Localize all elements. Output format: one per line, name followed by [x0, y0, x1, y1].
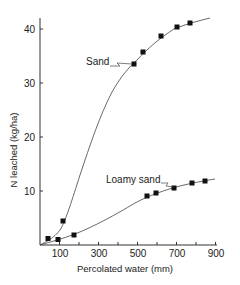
loamy-sand-curve — [40, 179, 215, 245]
x-axis-label: Percolated water (mm) — [77, 263, 173, 274]
sand-leader-line — [110, 63, 132, 66]
loamy-sand-label: Loamy sand — [106, 174, 160, 185]
y-tick-label: 20 — [24, 132, 36, 143]
x-tick-label: 500 — [130, 248, 147, 259]
sand-curve — [40, 18, 210, 245]
y-axis-label: N leached (kg/ha) — [8, 113, 19, 188]
y-tick-label: 30 — [24, 78, 36, 89]
loamy-sand-leader-line — [161, 183, 173, 187]
sand-markers — [46, 21, 193, 243]
x-tick-label: 900 — [208, 248, 225, 259]
sand-label: Sand — [86, 56, 109, 67]
y-tick-label: 40 — [24, 24, 36, 35]
chart: 10 20 30 40 100 300 500 700 900 Percolat… — [0, 0, 240, 285]
x-tick-label: 100 — [52, 248, 69, 259]
y-tick-label: 10 — [24, 186, 36, 197]
loamy-sand-markers — [72, 179, 208, 238]
x-tick-label: 300 — [91, 248, 108, 259]
x-tick-label: 700 — [169, 248, 186, 259]
